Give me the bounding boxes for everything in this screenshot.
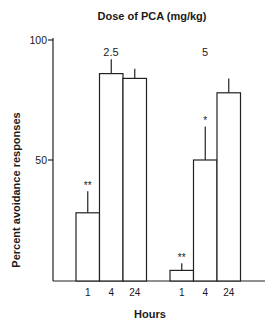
bar-chart: Dose of PCA (mg/kg) Percent avoidance re… (0, 0, 277, 330)
chart-title: Dose of PCA (mg/kg) (98, 10, 207, 22)
group-label: 5 (202, 46, 208, 58)
y-tick-label: 100 (29, 34, 47, 46)
x-tick-label: 24 (223, 287, 235, 298)
y-axis-label: Percent avoidance responses (10, 112, 22, 267)
x-tick-label: 24 (129, 287, 141, 298)
bar (170, 270, 194, 281)
bar (217, 93, 241, 281)
significance-marker: * (203, 115, 207, 126)
y-tick-label: 50 (35, 154, 47, 166)
bar (194, 160, 218, 281)
bars: 2.5**14245**1*424 (76, 46, 241, 298)
significance-marker: ** (84, 180, 92, 191)
x-tick-label: 1 (85, 287, 91, 298)
chart-figure: Dose of PCA (mg/kg) Percent avoidance re… (0, 0, 277, 330)
x-tick-label: 4 (108, 287, 114, 298)
group-label: 2.5 (103, 46, 118, 58)
significance-marker: ** (178, 252, 186, 263)
x-tick-label: 1 (179, 287, 185, 298)
bar (76, 213, 100, 281)
x-tick-label: 4 (202, 287, 208, 298)
bar (123, 78, 147, 281)
x-axis-label: Hours (134, 308, 166, 320)
bar (100, 74, 124, 281)
